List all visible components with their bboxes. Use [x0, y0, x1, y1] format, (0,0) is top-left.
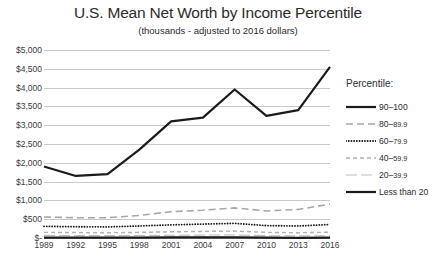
- legend-item[interactable]: 20–39.9: [346, 166, 436, 183]
- legend-item[interactable]: Less than 20: [346, 183, 436, 200]
- chart-subtitle: (thousands - adjusted to 2016 dollars): [0, 25, 436, 36]
- legend-swatch-icon: [346, 119, 376, 129]
- legend-item[interactable]: 80–89.9: [346, 115, 436, 132]
- legend-swatch-icon: [346, 153, 376, 163]
- y-axis-tick-label: $1,000: [0, 195, 42, 205]
- x-axis-tick-label: 1995: [98, 240, 117, 250]
- y-axis-tick-label: $1,500: [0, 177, 42, 187]
- legend-items: 90–10080–89.960–79.940–59.920–39.9Less t…: [346, 98, 436, 200]
- x-axis-tick-label: 2001: [162, 240, 181, 250]
- chart-title: U.S. Mean Net Worth by Income Percentile: [0, 4, 436, 22]
- legend-title: Percentile:: [346, 78, 436, 89]
- legend-swatch-icon: [346, 136, 376, 146]
- y-axis-tick-label: $500: [0, 214, 42, 224]
- legend-item-label: 80–89.9: [379, 119, 407, 129]
- x-axis-tick-label: 2007: [225, 240, 244, 250]
- x-axis-tick-label: 2013: [289, 240, 308, 250]
- legend-swatch-icon: [346, 187, 376, 197]
- legend-item-label: Less than 20: [379, 187, 428, 197]
- y-axis-labels: $5,000$4,500$4,000$3,500$3,000$2,500$2,0…: [0, 50, 42, 238]
- legend-swatch-icon: [346, 102, 376, 112]
- legend-item-label: 20–39.9: [379, 170, 407, 180]
- series-line: [44, 204, 330, 218]
- x-axis-tick-label: 1989: [35, 240, 54, 250]
- x-axis-tick-label: 2004: [193, 240, 212, 250]
- series-line: [44, 223, 330, 227]
- y-axis-tick-label: $4,500: [0, 64, 42, 74]
- legend-item-label: 40–59.9: [379, 153, 407, 163]
- x-axis-tick-label: 1998: [130, 240, 149, 250]
- series-line: [44, 67, 330, 176]
- legend-item[interactable]: 40–59.9: [346, 149, 436, 166]
- x-axis-tick-label: 1992: [66, 240, 85, 250]
- y-axis-tick-label: $3,500: [0, 101, 42, 111]
- legend-item-label: 90–100: [379, 102, 408, 112]
- x-axis-tick-label: 2010: [257, 240, 276, 250]
- legend-item[interactable]: 90–100: [346, 98, 436, 115]
- legend-item-label: 60–79.9: [379, 136, 407, 146]
- y-axis-tick-label: $2,000: [0, 158, 42, 168]
- legend-item-label-fraction: 89.9: [393, 120, 407, 129]
- y-axis-tick-label: $5,000: [0, 45, 42, 55]
- series-line: [44, 235, 330, 236]
- y-axis-tick-label: $4,000: [0, 83, 42, 93]
- y-axis-tick-label: $2,500: [0, 139, 42, 149]
- legend-swatch-icon: [346, 170, 376, 180]
- legend-item-label-fraction: 39.9: [393, 171, 407, 180]
- legend-item-label-fraction: 79.9: [393, 137, 407, 146]
- plot-area: [44, 50, 330, 238]
- chart-legend: Percentile: 90–10080–89.960–79.940–59.92…: [346, 78, 436, 200]
- chart-container: U.S. Mean Net Worth by Income Percentile…: [0, 0, 436, 260]
- y-axis-tick-label: $3,000: [0, 120, 42, 130]
- legend-item-label-fraction: 59.9: [393, 154, 407, 163]
- series-lines: [44, 50, 330, 238]
- x-axis-labels: 1989199219951998200120042007201020132016: [44, 240, 330, 256]
- legend-item[interactable]: 60–79.9: [346, 132, 436, 149]
- x-axis-tick-label: 2016: [321, 240, 340, 250]
- series-line: [44, 231, 330, 233]
